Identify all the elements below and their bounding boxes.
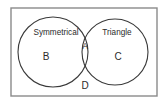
set-title-left: Symmetrical xyxy=(33,28,78,37)
region-label-left-only-b: B xyxy=(43,51,50,62)
region-label-intersection-a: A xyxy=(82,41,88,51)
set-title-right: Triangle xyxy=(102,28,132,37)
region-label-outside-d: D xyxy=(81,80,88,91)
region-label-right-only-c: C xyxy=(114,51,121,62)
venn-diagram-canvas: Symmetrical Triangle A B C D xyxy=(0,0,165,103)
venn-diagram-screenshot: Symmetrical Triangle A B C D xyxy=(0,0,165,103)
